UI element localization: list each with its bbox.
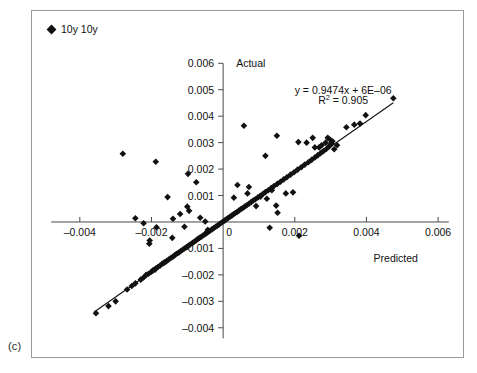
x-axis-title: Predicted xyxy=(374,252,419,264)
data-point-marker xyxy=(202,218,209,225)
data-point-marker xyxy=(132,215,139,222)
data-point-marker xyxy=(152,158,159,165)
panel-label: (c) xyxy=(8,340,21,352)
y-tick-label: 0.005 xyxy=(188,84,214,96)
data-point-marker xyxy=(193,179,200,186)
data-point-marker xyxy=(177,211,184,218)
chart-frame: 10y 10y –0.004–0.00200.0020.0040.006 0.0… xyxy=(31,10,464,358)
y-tick-label: 0.003 xyxy=(188,137,214,149)
data-point-marker xyxy=(274,209,281,216)
data-point-marker xyxy=(295,139,302,146)
data-point-marker xyxy=(303,139,310,146)
data-points xyxy=(93,95,397,317)
data-point-marker xyxy=(262,153,269,160)
y-tick-label: –0.002 xyxy=(182,269,214,281)
y-tick-label: 0.004 xyxy=(188,110,214,122)
data-point-marker xyxy=(234,182,241,189)
data-point-marker xyxy=(231,194,238,201)
y-axis-ticks: 0.0060.0050.0040.0030.0020.001–0.001–0.0… xyxy=(182,57,223,333)
scatter-plot: –0.004–0.00200.0020.0040.006 0.0060.0050… xyxy=(32,11,465,359)
y-tick-label: 0.002 xyxy=(188,163,214,175)
y-tick-label: 0.006 xyxy=(188,57,214,69)
x-tick-label: 0.006 xyxy=(425,226,451,238)
x-tick-label: –0.004 xyxy=(64,226,96,238)
data-point-marker xyxy=(244,190,251,197)
y-tick-label: –0.003 xyxy=(182,295,214,307)
data-point-marker xyxy=(273,202,280,209)
y-axis-title: Actual xyxy=(236,57,265,69)
data-point-marker xyxy=(274,132,281,139)
data-point-marker xyxy=(197,214,204,221)
data-point-marker xyxy=(170,216,177,223)
data-point-marker xyxy=(283,190,290,197)
data-point-marker xyxy=(253,203,260,210)
data-point-marker xyxy=(241,122,248,129)
data-point-marker xyxy=(312,144,319,151)
trendline xyxy=(94,103,393,312)
y-tick-label: 0.001 xyxy=(188,190,214,202)
data-point-marker xyxy=(362,112,369,119)
r-squared-label: R2 = 0.905 xyxy=(318,93,368,106)
data-point-marker xyxy=(164,194,171,201)
data-point-marker xyxy=(120,150,127,157)
data-point-marker xyxy=(264,195,271,202)
data-point-marker xyxy=(169,235,176,242)
x-tick-label: 0 xyxy=(226,226,232,238)
data-point-marker xyxy=(290,189,297,196)
r-squared-suffix: = 0.905 xyxy=(330,94,368,106)
data-point-marker xyxy=(343,124,350,131)
figure-panel: (c) 10y 10y –0.004–0.00200.0020.0040.006… xyxy=(0,0,477,373)
y-tick-label: –0.004 xyxy=(182,322,214,334)
data-point-marker xyxy=(351,121,358,128)
x-tick-label: 0.004 xyxy=(353,226,379,238)
x-axis-ticks: –0.004–0.00200.0020.0040.006 xyxy=(64,217,452,238)
data-point-marker xyxy=(246,184,253,191)
data-point-marker xyxy=(181,223,188,230)
x-tick-label: 0.002 xyxy=(282,226,308,238)
x-tick-label: –0.002 xyxy=(135,226,167,238)
data-point-marker xyxy=(266,225,273,232)
data-point-marker xyxy=(309,135,316,142)
